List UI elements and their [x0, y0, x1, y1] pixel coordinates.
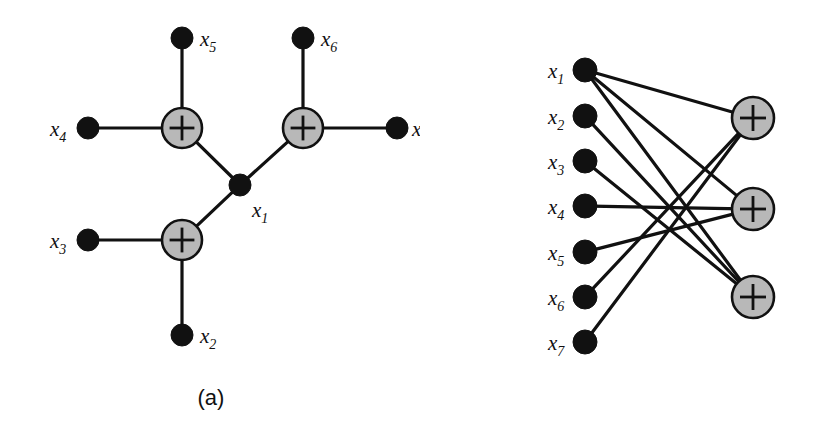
- variable-label-x5: x5: [547, 241, 564, 269]
- variable-node-x4: [573, 194, 597, 218]
- variable-node-x7: [573, 330, 597, 354]
- variable-label-x6: x6: [320, 27, 337, 55]
- variable-label-x7: x7: [547, 331, 565, 359]
- figure-root: x1x2x3x4x5x6x7 (a) x1x2x3x4x5x6x7 (b): [0, 0, 818, 442]
- variable-label-x7: x7: [411, 117, 420, 145]
- factor-node-factor-left-top: [162, 108, 202, 148]
- caption-panel-a: (a): [151, 385, 271, 411]
- variable-label-x6: x6: [547, 286, 564, 314]
- factor-node-check-2: [732, 188, 774, 230]
- variable-label-x2: x2: [199, 324, 216, 352]
- variable-node-x3: [573, 149, 597, 173]
- variable-node-x7: [386, 117, 408, 139]
- factor-node-check-1: [732, 97, 774, 139]
- panel-b-canvas: x1x2x3x4x5x6x7: [420, 0, 818, 442]
- factor-node-factor-bottom: [162, 220, 202, 260]
- factor-node-check-3: [732, 276, 774, 318]
- variable-node-x1: [573, 58, 597, 82]
- edge-layer: [589, 72, 746, 337]
- variable-node-x5: [573, 240, 597, 264]
- edge-x2-check-3: [589, 121, 745, 289]
- variable-label-x2: x2: [547, 105, 564, 133]
- variable-label-x1: x1: [251, 198, 268, 226]
- variable-label-x5: x5: [199, 27, 216, 55]
- variable-layer: x1x2x3x4x5x6x7: [49, 27, 420, 352]
- variable-node-x4: [77, 117, 99, 139]
- edge-x7-check-1: [589, 127, 746, 336]
- variable-label-x3: x3: [49, 229, 66, 257]
- variable-node-x2: [573, 104, 597, 128]
- panel-b-tanner-graph: x1x2x3x4x5x6x7 (b): [420, 0, 818, 442]
- panel-a-factor-graph: x1x2x3x4x5x6x7 (a): [0, 0, 420, 442]
- variable-label-x1: x1: [547, 59, 564, 87]
- variable-label-x4: x4: [49, 117, 66, 145]
- panel-a-canvas: x1x2x3x4x5x6x7: [0, 0, 420, 442]
- variable-node-x3: [77, 229, 99, 251]
- variable-node-x6: [573, 285, 597, 309]
- variable-node-x5: [171, 27, 193, 49]
- variable-layer: x1x2x3x4x5x6x7: [547, 58, 597, 359]
- factor-node-factor-right-top: [283, 108, 323, 148]
- variable-node-x1: [229, 174, 251, 196]
- variable-node-x2: [171, 324, 193, 346]
- variable-label-x3: x3: [547, 150, 564, 178]
- variable-label-x4: x4: [547, 195, 564, 223]
- variable-node-x6: [292, 27, 314, 49]
- factor-layer: [732, 97, 774, 318]
